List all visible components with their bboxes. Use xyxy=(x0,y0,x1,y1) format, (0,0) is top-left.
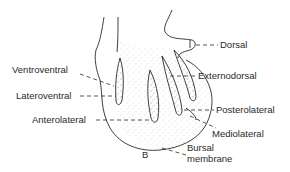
label-mediolateral: Mediolateral xyxy=(212,129,264,139)
label-lateroventral: Lateroventral xyxy=(16,91,71,101)
label-posterolateral: Posterolateral xyxy=(216,105,275,115)
panel-letter: B xyxy=(142,150,148,160)
bursa-diagram: Dorsal Externodorsal Ventroventral Later… xyxy=(0,0,290,172)
label-ventroventral: Ventroventral xyxy=(12,65,68,75)
label-bursal-membrane-line2: membrane xyxy=(187,154,232,164)
label-anterolateral: Anterolateral xyxy=(32,115,86,125)
label-externodorsal: Externodorsal xyxy=(198,71,257,81)
label-dorsal: Dorsal xyxy=(220,40,247,50)
bursa-drawing xyxy=(0,0,290,172)
label-bursal-membrane-line1: Bursal xyxy=(187,143,214,153)
